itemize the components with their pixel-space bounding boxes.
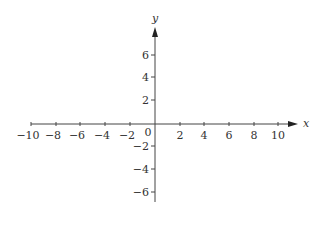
origin-label: 0 [145,126,152,139]
y-tick-label: 2 [142,94,149,107]
x-tick-labels: −10 −8 −6 −4 −2 0 2 4 6 8 10 [16,126,285,142]
y-tick-label: −2 [133,140,149,153]
x-tick-label: −8 [45,129,61,142]
y-tick-label: 6 [142,49,149,62]
coordinate-plane: x y −10 −8 −6 −4 −2 0 2 4 6 8 10 [0,0,314,225]
y-tick-label: −4 [133,163,149,176]
x-tick-label: −4 [94,129,110,142]
x-tick-label: 10 [271,129,285,142]
x-tick-label: 8 [251,129,258,142]
y-axis-arrow-icon [152,27,158,37]
x-tick-label: −10 [16,129,39,142]
x-tick-label: 2 [177,129,184,142]
y-axis-label: y [151,12,159,25]
x-axis-label: x [303,117,310,130]
x-tick-label: 6 [226,129,233,142]
x-tick-label: −6 [69,129,85,142]
y-tick-label: 4 [142,71,149,84]
x-tick-label: 4 [201,129,208,142]
x-axis-arrow-icon [288,121,298,127]
y-axis: y [151,12,159,202]
y-tick-label: −6 [133,186,149,199]
